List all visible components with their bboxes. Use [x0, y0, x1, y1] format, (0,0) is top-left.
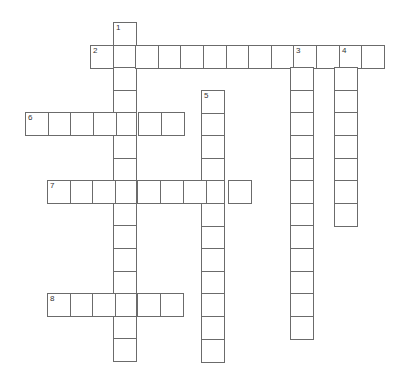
crossword-cell[interactable]	[92, 293, 116, 317]
crossword-cell[interactable]	[201, 203, 225, 227]
crossword-cell[interactable]	[161, 112, 185, 136]
crossword-cell[interactable]	[137, 180, 161, 204]
crossword-cell[interactable]	[290, 225, 314, 249]
crossword-cell[interactable]	[290, 293, 314, 317]
crossword-cell[interactable]: 5	[201, 90, 225, 114]
crossword-cell[interactable]	[334, 112, 358, 136]
clue-number: 1	[116, 24, 120, 32]
crossword-cell[interactable]	[135, 45, 159, 69]
crossword-cell[interactable]	[290, 158, 314, 182]
crossword-cell[interactable]	[290, 248, 314, 272]
crossword-grid: 12345678	[0, 0, 401, 376]
crossword-cell[interactable]: 2	[90, 45, 114, 69]
crossword-cell[interactable]	[158, 45, 182, 69]
crossword-cell[interactable]: 7	[47, 180, 71, 204]
crossword-cell[interactable]	[290, 316, 314, 340]
crossword-cell[interactable]	[113, 293, 137, 317]
crossword-cell[interactable]	[180, 45, 204, 69]
clue-number: 8	[50, 295, 54, 303]
crossword-cell[interactable]	[361, 45, 385, 69]
clue-number: 7	[50, 182, 54, 190]
crossword-cell[interactable]: 8	[47, 293, 71, 317]
crossword-cell[interactable]	[160, 293, 184, 317]
crossword-cell[interactable]	[113, 158, 137, 182]
crossword-cell[interactable]	[201, 271, 225, 295]
crossword-cell[interactable]	[290, 112, 314, 136]
crossword-cell[interactable]: 1	[113, 22, 137, 46]
crossword-cell[interactable]	[290, 135, 314, 159]
crossword-cell[interactable]	[334, 67, 358, 91]
crossword-cell[interactable]: 6	[25, 112, 49, 136]
clue-number: 2	[93, 47, 97, 55]
crossword-cell[interactable]	[113, 225, 137, 249]
crossword-cell[interactable]	[334, 135, 358, 159]
crossword-cell[interactable]	[183, 180, 207, 204]
crossword-cell[interactable]	[48, 112, 72, 136]
crossword-cell[interactable]	[334, 180, 358, 204]
crossword-cell[interactable]	[201, 113, 225, 137]
crossword-cell[interactable]	[201, 316, 225, 340]
crossword-cell[interactable]	[113, 45, 137, 69]
crossword-cell[interactable]: 4	[339, 45, 363, 69]
crossword-cell[interactable]	[201, 135, 225, 159]
crossword-cell[interactable]	[203, 45, 227, 69]
clue-number: 3	[296, 47, 300, 55]
crossword-cell[interactable]	[70, 112, 94, 136]
clue-number: 5	[204, 92, 208, 100]
crossword-cell[interactable]	[290, 90, 314, 114]
crossword-cell[interactable]	[138, 112, 162, 136]
crossword-cell[interactable]	[290, 203, 314, 227]
crossword-cell[interactable]	[201, 248, 225, 272]
crossword-cell[interactable]	[316, 45, 340, 69]
crossword-cell[interactable]	[113, 271, 137, 295]
crossword-cell[interactable]	[113, 67, 137, 91]
crossword-cell[interactable]	[201, 339, 225, 363]
crossword-cell[interactable]: 3	[293, 45, 317, 69]
crossword-cell[interactable]	[228, 180, 252, 204]
crossword-cell[interactable]	[201, 226, 225, 250]
crossword-cell[interactable]	[334, 203, 358, 227]
crossword-cell[interactable]	[137, 293, 161, 317]
crossword-cell[interactable]	[334, 158, 358, 182]
crossword-cell[interactable]	[226, 45, 250, 69]
crossword-cell[interactable]	[70, 293, 94, 317]
crossword-cell[interactable]	[113, 180, 137, 204]
crossword-cell[interactable]	[113, 338, 137, 362]
crossword-cell[interactable]	[113, 90, 137, 114]
crossword-cell[interactable]	[290, 67, 314, 91]
crossword-cell[interactable]	[160, 180, 184, 204]
crossword-cell[interactable]	[113, 203, 137, 227]
clue-number: 4	[342, 47, 346, 55]
crossword-cell[interactable]	[290, 180, 314, 204]
crossword-cell[interactable]	[93, 112, 117, 136]
crossword-cell[interactable]	[334, 90, 358, 114]
crossword-cell[interactable]	[271, 45, 295, 69]
crossword-cell[interactable]	[201, 158, 225, 182]
crossword-cell[interactable]	[290, 271, 314, 295]
crossword-cell[interactable]	[248, 45, 272, 69]
crossword-cell[interactable]	[201, 293, 225, 317]
crossword-cell[interactable]	[70, 180, 94, 204]
clue-number: 6	[28, 114, 32, 122]
crossword-cell[interactable]	[113, 248, 137, 272]
crossword-cell[interactable]	[113, 135, 137, 159]
crossword-cell[interactable]	[113, 316, 137, 340]
crossword-cell[interactable]	[92, 180, 116, 204]
